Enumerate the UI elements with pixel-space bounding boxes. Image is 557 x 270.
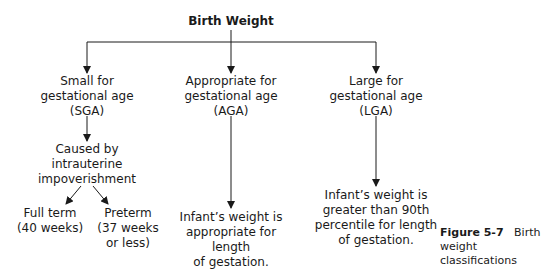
- node-aga-description: Infant’s weight is appropriate for lengt…: [166, 210, 296, 270]
- node-lga: Large for gestational age (LGA): [316, 74, 436, 119]
- node-lga-description: Infant’s weight is greater than 90th per…: [311, 188, 441, 248]
- node-sga: Small for gestational age (SGA): [27, 74, 147, 119]
- node-aga: Appropriate for gestational age (AGA): [171, 74, 291, 119]
- node-full-term: Full term (40 weeks): [10, 206, 90, 236]
- node-preterm: Preterm (37 weeks or less): [88, 206, 168, 251]
- root-node-birth-weight: Birth Weight: [181, 14, 281, 29]
- node-sga-cause: Caused by intrauterine impoverishment: [27, 142, 147, 187]
- figure-caption: Figure 5-7 Birth weight classifications: [440, 226, 557, 268]
- figure-number: Figure 5-7: [440, 226, 504, 239]
